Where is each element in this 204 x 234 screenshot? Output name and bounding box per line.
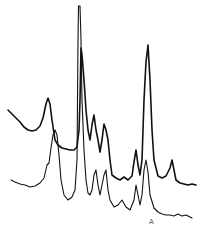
upper-trace-line [8,45,196,185]
chromatogram-plot [0,0,204,234]
peak-marker-label: A [149,219,154,226]
lower-trace-line [11,6,192,218]
